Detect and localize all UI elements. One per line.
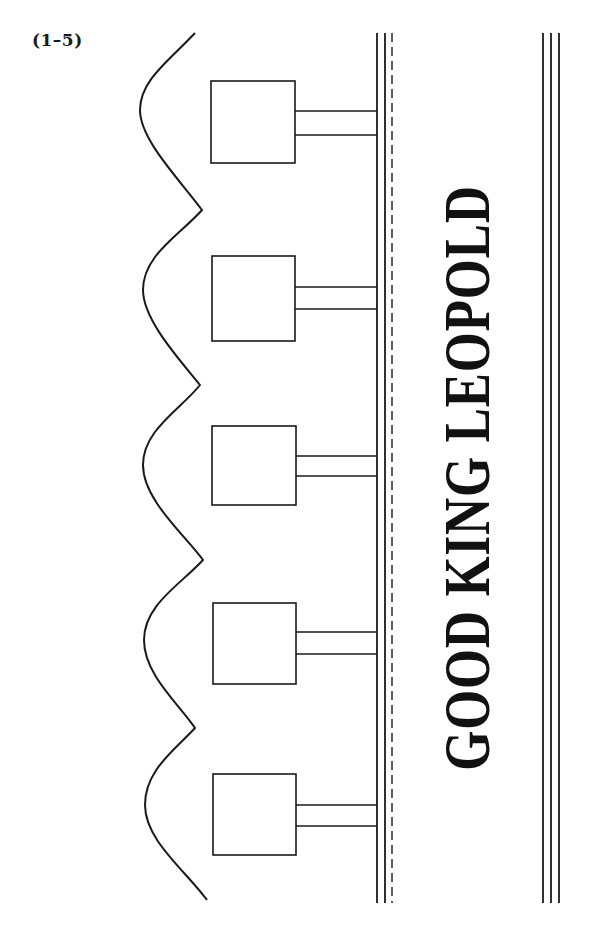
street-diagram: (1–5) <box>0 0 593 927</box>
house-1 <box>211 81 377 163</box>
house-4 <box>213 603 377 684</box>
street-name-label: GOOD KING LEOPOLD <box>434 185 500 770</box>
road-right-edge <box>543 33 559 903</box>
shoreline-curve <box>140 33 207 900</box>
house-5 <box>213 774 377 855</box>
road-left-edge <box>377 33 392 903</box>
house-3 <box>212 426 377 505</box>
street-name-container: GOOD KING LEOPOLD <box>441 205 493 751</box>
house-2 <box>212 256 377 341</box>
diagram-canvas <box>0 0 593 927</box>
